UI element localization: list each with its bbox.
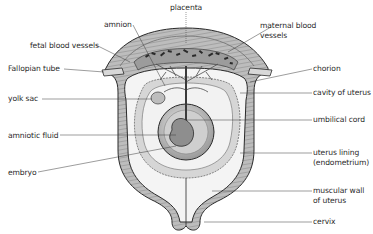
label-amniotic-fluid: amniotic fluid bbox=[8, 131, 58, 140]
label-cavity-of-uterus: cavity of uterus bbox=[313, 88, 371, 97]
label-uterus-lining-1: uterus lining bbox=[313, 148, 359, 157]
yolk-sac bbox=[151, 92, 165, 104]
label-maternal-blood-vessels-2: vessels bbox=[260, 31, 287, 40]
label-embryo: embryo bbox=[8, 168, 37, 177]
label-maternal-blood-vessels-1: maternal blood bbox=[260, 21, 316, 30]
label-placenta: placenta bbox=[170, 3, 202, 12]
label-uterus-lining-2: (endometrium) bbox=[313, 158, 369, 167]
label-muscular-wall-1: muscular wall bbox=[313, 186, 364, 195]
label-fetal-blood-vessels: fetal blood vessels bbox=[30, 41, 99, 50]
label-chorion: chorion bbox=[313, 64, 341, 73]
label-muscular-wall-2: of uterus bbox=[313, 196, 346, 205]
label-umbilical-cord: umbilical cord bbox=[313, 115, 365, 124]
label-fallopian-tube: Fallopian tube bbox=[8, 64, 60, 73]
label-yolk-sac: yolk sac bbox=[8, 94, 38, 103]
label-amnion: amnion bbox=[104, 20, 132, 29]
label-cervix: cervix bbox=[313, 217, 335, 226]
